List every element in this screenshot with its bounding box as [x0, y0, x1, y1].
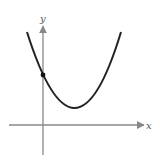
x-axis-label: x: [146, 120, 152, 131]
y-axis-label: y: [39, 13, 46, 24]
y-intercept-point: [41, 73, 46, 78]
parabola-chart: x y: [0, 0, 160, 163]
parabola-curve: [27, 32, 121, 108]
